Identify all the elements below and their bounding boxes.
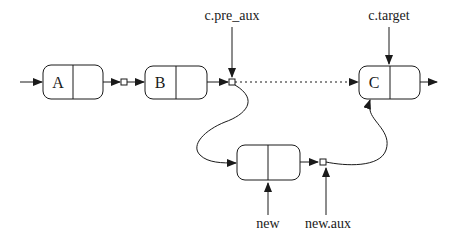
node-c-label: C xyxy=(369,74,380,91)
node-new xyxy=(237,145,300,180)
new-aux-square xyxy=(320,159,326,165)
node-c: C xyxy=(359,66,420,99)
new-label: new xyxy=(256,216,280,231)
node-a: A xyxy=(43,65,103,99)
linked-list-diagram: A B c.pre_aux C c.target new new.aux xyxy=(0,0,454,238)
c-target-label: c.target xyxy=(368,8,409,23)
pre-aux-square xyxy=(229,79,235,85)
curved-arrow-newaux-c xyxy=(326,100,387,165)
link-square-ab xyxy=(121,79,127,85)
c-pre-aux-label: c.pre_aux xyxy=(205,8,260,23)
node-b: B xyxy=(145,66,207,99)
node-b-label: B xyxy=(155,74,166,91)
node-a-label: A xyxy=(52,74,64,91)
new-aux-label: new.aux xyxy=(305,216,351,231)
